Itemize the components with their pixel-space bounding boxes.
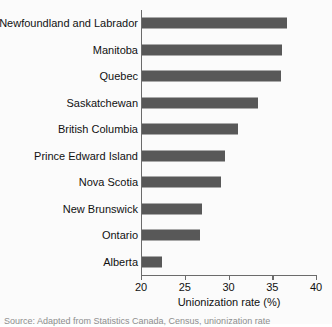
bar-row: New Brunswick <box>0 196 332 223</box>
bar-row: Quebec <box>0 63 332 90</box>
category-label: Prince Edward Island <box>34 149 138 162</box>
bar <box>142 230 200 241</box>
bar-row: Newfoundland and Labrador <box>0 10 332 37</box>
bar <box>142 150 225 161</box>
bar <box>142 44 282 55</box>
x-axis-tick-label: 30 <box>222 281 234 294</box>
category-label: Ontario <box>102 229 138 242</box>
bar-row: Manitoba <box>0 37 332 64</box>
x-axis-tick-label: 40 <box>310 281 322 294</box>
bar-row: Ontario <box>0 222 332 249</box>
bar <box>142 97 258 108</box>
bar <box>142 71 281 82</box>
source-caption: Source: Adapted from Statistics Canada, … <box>4 316 330 327</box>
x-axis-title: Unionization rate (%) <box>141 296 317 309</box>
x-axis-tick-label: 25 <box>179 281 191 294</box>
x-axis-tick <box>141 275 142 280</box>
bar <box>142 256 162 267</box>
bar-row: Prince Edward Island <box>0 143 332 170</box>
category-label: Nova Scotia <box>79 176 138 189</box>
category-label: Manitoba <box>93 43 138 56</box>
bar-row: Saskatchewan <box>0 90 332 117</box>
bar-row: Alberta <box>0 249 332 276</box>
x-axis-tick <box>316 275 317 280</box>
x-axis-tick <box>185 275 186 280</box>
bar <box>142 177 221 188</box>
x-axis-tick-label: 20 <box>135 281 147 294</box>
category-label: Newfoundland and Labrador <box>0 17 138 30</box>
category-label: British Columbia <box>58 123 138 136</box>
category-label: New Brunswick <box>63 202 138 215</box>
bar <box>142 124 238 135</box>
x-axis-tick <box>272 275 273 280</box>
bar-row: British Columbia <box>0 116 332 143</box>
category-label: Alberta <box>103 255 138 268</box>
bar <box>142 18 287 29</box>
bar <box>142 203 202 214</box>
category-label: Quebec <box>99 70 138 83</box>
category-label: Saskatchewan <box>66 96 138 109</box>
bar-row: Nova Scotia <box>0 169 332 196</box>
x-axis-tick-label: 35 <box>266 281 278 294</box>
x-axis-tick <box>229 275 230 280</box>
